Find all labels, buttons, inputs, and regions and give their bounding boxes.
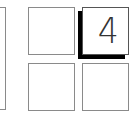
key-top-left[interactable] <box>28 7 75 55</box>
key-bottom-right[interactable] <box>82 63 129 111</box>
key-label-4: 4 <box>98 12 119 50</box>
key-4-raised[interactable]: 4 <box>82 7 129 55</box>
key-bottom-left[interactable] <box>28 63 75 111</box>
key-partial-left[interactable] <box>0 7 6 110</box>
